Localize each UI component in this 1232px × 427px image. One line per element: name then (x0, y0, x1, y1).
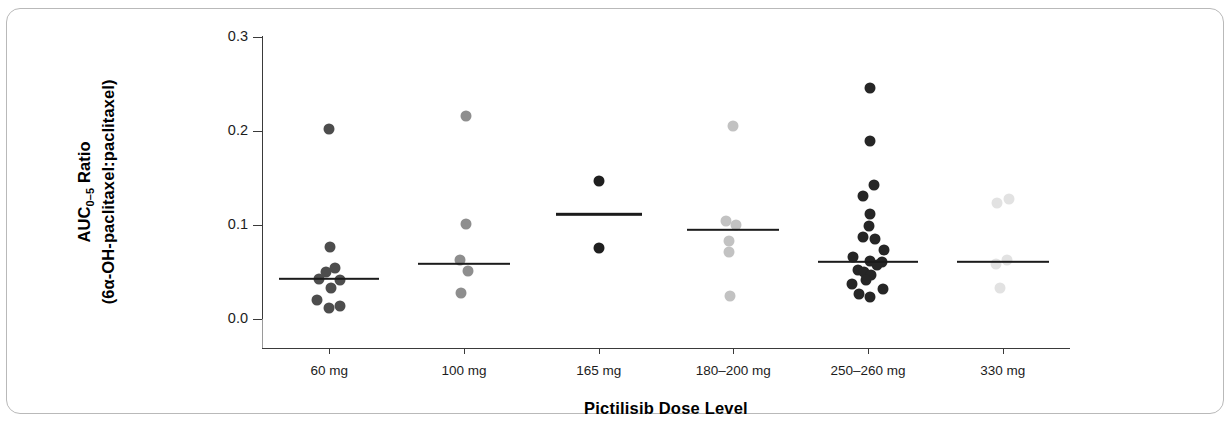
mean-line (957, 261, 1049, 263)
series-group-330-mg (0, 0, 1232, 427)
data-point (1004, 194, 1015, 205)
data-point (994, 282, 1005, 293)
dot-plot: 0.00.10.20.3 60 mg100 mg165 mg180–200 mg… (0, 0, 1232, 427)
data-point (992, 197, 1003, 208)
y-axis-title: AUC0–5 Ratio (6α-OH-paclitaxel:paclitaxe… (74, 42, 118, 342)
figure-root: 0.00.10.20.3 60 mg100 mg165 mg180–200 mg… (0, 0, 1232, 427)
y-axis-title-tail: Ratio (75, 141, 93, 187)
y-axis-title-main: AUC (75, 206, 93, 242)
y-axis-title-second-line: (6α-OH-paclitaxel:paclitaxel) (99, 79, 117, 304)
x-axis-title: Pictilisib Dose Level (262, 399, 1070, 418)
y-axis-title-subscript: 0–5 (84, 188, 96, 207)
